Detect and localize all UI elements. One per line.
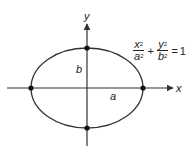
ellipse-diagram: x y b a <box>0 0 195 151</box>
eq-exp: 2 <box>164 41 167 47</box>
vertex-top <box>84 45 89 50</box>
fraction-y-over-b: y2 b2 <box>157 39 168 62</box>
eq-equals: = <box>171 45 177 57</box>
ellipse-equation: x2 a2 + y2 b2 = 1 <box>132 39 186 62</box>
fraction-x-over-a: x2 a2 <box>133 39 144 62</box>
eq-exp: 2 <box>140 53 143 59</box>
semi-minor-label: b <box>76 63 82 75</box>
vertex-right <box>140 85 145 90</box>
vertex-left <box>28 85 33 90</box>
eq-rhs: 1 <box>180 45 186 57</box>
eq-exp: 2 <box>140 41 143 47</box>
x-axis-label: x <box>175 82 182 94</box>
semi-major-label: a <box>110 90 116 102</box>
y-axis-label: y <box>83 10 91 22</box>
eq-exp: 2 <box>164 53 167 59</box>
eq-plus: + <box>147 45 153 57</box>
vertex-bottom <box>84 125 89 130</box>
